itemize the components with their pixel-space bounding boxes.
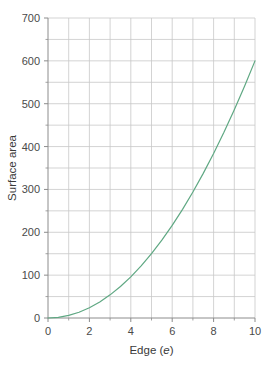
x-axis-tick-label: 4 (128, 325, 134, 337)
x-axis-tick-label: 10 (249, 325, 261, 337)
x-axis-tick-label: 6 (169, 325, 175, 337)
y-axis-tick-label: 300 (22, 183, 40, 195)
y-axis-title: Surface area (6, 134, 18, 200)
x-axis-title-plain: Edge ( (129, 344, 163, 356)
y-axis-tick-label: 100 (22, 269, 40, 281)
x-axis-title-close: ) (170, 344, 174, 356)
chart-background (0, 0, 270, 369)
x-axis-tick-label: 2 (86, 325, 92, 337)
y-axis-tick-label: 200 (22, 226, 40, 238)
y-axis-tick-label: 700 (22, 12, 40, 24)
y-axis-tick-label: 400 (22, 141, 40, 153)
y-axis-tick-label: 600 (22, 55, 40, 67)
x-axis-tick-label: 0 (45, 325, 51, 337)
y-axis-tick-label: 500 (22, 98, 40, 110)
surface-area-line-chart: 0100200300400500600700 0246810 Surface a… (0, 0, 270, 369)
chart-container: 0100200300400500600700 0246810 Surface a… (0, 0, 270, 369)
x-axis-title: Edge (e) (129, 344, 173, 356)
y-axis-tick-label: 0 (34, 312, 40, 324)
x-axis-tick-label: 8 (211, 325, 217, 337)
